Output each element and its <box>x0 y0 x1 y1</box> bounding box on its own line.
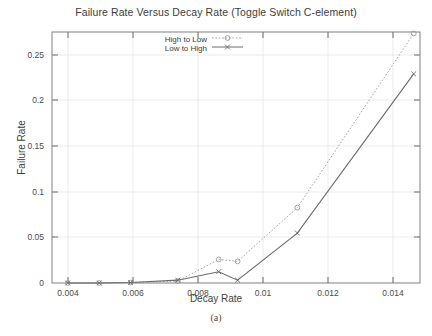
series-low-to-high <box>65 72 416 286</box>
plot-area <box>0 0 432 336</box>
series-high-to-low <box>65 31 416 285</box>
series-line <box>68 74 414 283</box>
data-point-marker <box>235 278 240 283</box>
grid-horizontal <box>52 55 420 237</box>
x-tick-label: 0.014 <box>382 288 403 298</box>
chart-title: Failure Rate Versus Decay Rate (Toggle S… <box>0 6 432 18</box>
legend-label-low-to-high: Low to High <box>120 44 207 53</box>
series-layer <box>65 31 416 285</box>
x-tick-label: 0.006 <box>122 288 143 298</box>
y-tick-label: 0 <box>4 278 44 288</box>
x-tick-label: 0.012 <box>317 288 338 298</box>
figure-caption: (a) <box>0 312 432 323</box>
tick-marks <box>52 32 420 283</box>
plot-frame <box>52 32 420 283</box>
series-line <box>68 33 414 283</box>
data-point-marker <box>411 72 416 77</box>
y-tick-label: 0.05 <box>4 232 44 242</box>
legend-label-high-to-low: High to Low <box>120 35 207 44</box>
data-point-marker <box>216 257 221 262</box>
data-point-marker <box>295 231 300 236</box>
legend-key-high-to-low <box>212 36 243 41</box>
x-tick-label: 0.004 <box>57 288 78 298</box>
figure-container: Failure Rate Versus Decay Rate (Toggle S… <box>0 0 432 336</box>
y-tick-label: 0.25 <box>4 50 44 60</box>
y-tick-label: 0.1 <box>4 187 44 197</box>
y-tick-label: 0.15 <box>4 141 44 151</box>
y-tick-label: 0.2 <box>4 95 44 105</box>
grid-vertical <box>68 32 393 283</box>
x-tick-label: 0.008 <box>187 288 208 298</box>
x-tick-label: 0.01 <box>255 288 272 298</box>
legend-key-low-to-high <box>212 45 243 50</box>
